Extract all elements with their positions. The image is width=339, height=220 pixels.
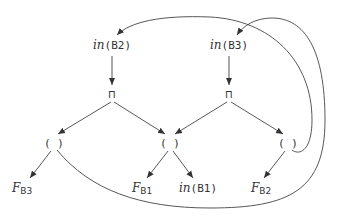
diagram-svg: in(B2) in(B3) ⊓ ⊓ ( ) ( ) ( ) FB3 FB1 in… [0, 0, 339, 220]
edge-parenmid-fb1 [147, 151, 168, 178]
node-in-b1: in(B1) [179, 181, 217, 195]
node-paren-left: ( ) [44, 137, 64, 150]
node-paren-right: ( ) [278, 137, 298, 150]
node-paren-mid: ( ) [160, 137, 180, 150]
edge-meetright-parenright [231, 102, 283, 134]
node-f-b1: FB1 [131, 181, 152, 196]
edge-parenleft-fb3 [30, 151, 51, 178]
node-f-b2: FB2 [250, 181, 271, 196]
node-meet-right: ⊓ [226, 88, 233, 101]
edge-parenmid-inb1 [173, 151, 193, 178]
edge-parenright-fb2 [264, 151, 285, 178]
node-in-b3: in(B3) [210, 38, 248, 52]
edge-parenright-inb2-curve [117, 17, 312, 152]
edge-meetleft-parenleft [58, 102, 111, 134]
node-f-b3: FB3 [11, 181, 32, 196]
node-in-b2: in(B2) [93, 38, 131, 52]
edge-meetleft-parenmid [114, 102, 165, 134]
dataflow-diagram: in(B2) in(B3) ⊓ ⊓ ( ) ( ) ( ) FB3 FB1 in… [0, 0, 339, 220]
node-meet-left: ⊓ [109, 88, 116, 101]
edge-meetright-parenmid [175, 102, 227, 134]
